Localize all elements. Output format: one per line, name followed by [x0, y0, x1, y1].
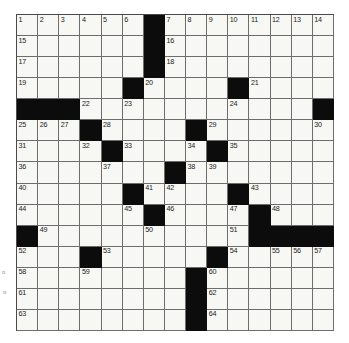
grid-letter-cell[interactable] — [292, 268, 313, 289]
grid-letter-cell[interactable] — [59, 78, 80, 99]
grid-letter-cell[interactable] — [38, 57, 59, 78]
grid-letter-cell[interactable] — [228, 310, 249, 331]
grid-letter-cell[interactable] — [165, 289, 186, 310]
grid-letter-cell[interactable] — [228, 36, 249, 57]
grid-letter-cell[interactable]: 11 — [249, 15, 270, 36]
grid-letter-cell[interactable] — [292, 289, 313, 310]
grid-letter-cell[interactable]: 23 — [123, 99, 144, 120]
grid-letter-cell[interactable]: 41 — [144, 184, 165, 205]
grid-letter-cell[interactable] — [292, 141, 313, 162]
grid-letter-cell[interactable]: 54 — [228, 247, 249, 268]
grid-letter-cell[interactable] — [249, 141, 270, 162]
grid-letter-cell[interactable]: 28 — [102, 120, 123, 141]
grid-letter-cell[interactable] — [59, 226, 80, 247]
grid-letter-cell[interactable] — [102, 310, 123, 331]
grid-letter-cell[interactable]: 52 — [17, 247, 38, 268]
grid-letter-cell[interactable] — [249, 247, 270, 268]
grid-letter-cell[interactable]: 21 — [249, 78, 270, 99]
grid-letter-cell[interactable] — [249, 268, 270, 289]
grid-letter-cell[interactable] — [123, 226, 144, 247]
grid-letter-cell[interactable] — [38, 268, 59, 289]
grid-letter-cell[interactable] — [59, 310, 80, 331]
grid-letter-cell[interactable] — [144, 120, 165, 141]
grid-letter-cell[interactable] — [102, 268, 123, 289]
grid-letter-cell[interactable]: 37 — [102, 162, 123, 183]
grid-letter-cell[interactable]: 49 — [38, 226, 59, 247]
grid-letter-cell[interactable]: 27 — [59, 120, 80, 141]
grid-letter-cell[interactable] — [292, 310, 313, 331]
grid-letter-cell[interactable]: 18 — [165, 57, 186, 78]
grid-letter-cell[interactable] — [186, 184, 207, 205]
grid-letter-cell[interactable] — [313, 78, 334, 99]
grid-letter-cell[interactable] — [80, 78, 101, 99]
grid-letter-cell[interactable]: 9 — [207, 15, 228, 36]
grid-letter-cell[interactable] — [165, 99, 186, 120]
grid-letter-cell[interactable]: 39 — [207, 162, 228, 183]
grid-letter-cell[interactable]: 22 — [80, 99, 101, 120]
grid-letter-cell[interactable] — [292, 36, 313, 57]
grid-letter-cell[interactable] — [271, 36, 292, 57]
grid-letter-cell[interactable]: 63 — [17, 310, 38, 331]
grid-letter-cell[interactable]: 53 — [102, 247, 123, 268]
grid-letter-cell[interactable] — [80, 310, 101, 331]
grid-letter-cell[interactable]: 24 — [228, 99, 249, 120]
grid-letter-cell[interactable] — [38, 162, 59, 183]
grid-letter-cell[interactable] — [144, 310, 165, 331]
grid-letter-cell[interactable]: 16 — [165, 36, 186, 57]
grid-letter-cell[interactable]: 13 — [292, 15, 313, 36]
grid-letter-cell[interactable] — [249, 289, 270, 310]
grid-letter-cell[interactable] — [292, 162, 313, 183]
grid-letter-cell[interactable] — [207, 226, 228, 247]
grid-letter-cell[interactable] — [123, 310, 144, 331]
grid-letter-cell[interactable] — [102, 184, 123, 205]
grid-letter-cell[interactable] — [144, 289, 165, 310]
grid-letter-cell[interactable] — [292, 78, 313, 99]
grid-letter-cell[interactable] — [271, 184, 292, 205]
grid-letter-cell[interactable] — [249, 120, 270, 141]
grid-letter-cell[interactable]: 31 — [17, 141, 38, 162]
grid-letter-cell[interactable] — [38, 184, 59, 205]
grid-letter-cell[interactable] — [123, 36, 144, 57]
grid-letter-cell[interactable]: 32 — [80, 141, 101, 162]
grid-letter-cell[interactable] — [38, 36, 59, 57]
grid-letter-cell[interactable]: 17 — [17, 57, 38, 78]
grid-letter-cell[interactable] — [165, 226, 186, 247]
grid-letter-cell[interactable]: 8 — [186, 15, 207, 36]
grid-letter-cell[interactable] — [59, 36, 80, 57]
grid-letter-cell[interactable] — [313, 162, 334, 183]
grid-letter-cell[interactable] — [102, 78, 123, 99]
grid-letter-cell[interactable] — [271, 310, 292, 331]
grid-letter-cell[interactable] — [80, 289, 101, 310]
grid-letter-cell[interactable] — [207, 78, 228, 99]
grid-letter-cell[interactable] — [123, 57, 144, 78]
grid-letter-cell[interactable] — [144, 268, 165, 289]
grid-letter-cell[interactable] — [249, 162, 270, 183]
grid-letter-cell[interactable] — [313, 268, 334, 289]
grid-letter-cell[interactable] — [313, 141, 334, 162]
grid-letter-cell[interactable]: 35 — [228, 141, 249, 162]
grid-letter-cell[interactable] — [165, 78, 186, 99]
grid-letter-cell[interactable] — [59, 205, 80, 226]
grid-letter-cell[interactable] — [80, 184, 101, 205]
grid-letter-cell[interactable] — [165, 310, 186, 331]
grid-letter-cell[interactable] — [249, 310, 270, 331]
grid-letter-cell[interactable] — [249, 36, 270, 57]
grid-letter-cell[interactable]: 61 — [17, 289, 38, 310]
grid-letter-cell[interactable] — [38, 289, 59, 310]
grid-letter-cell[interactable]: 7 — [165, 15, 186, 36]
grid-letter-cell[interactable] — [123, 162, 144, 183]
grid-letter-cell[interactable] — [207, 36, 228, 57]
grid-letter-cell[interactable]: 30 — [313, 120, 334, 141]
grid-letter-cell[interactable] — [165, 247, 186, 268]
grid-letter-cell[interactable] — [102, 36, 123, 57]
grid-letter-cell[interactable] — [80, 162, 101, 183]
grid-letter-cell[interactable] — [292, 120, 313, 141]
grid-letter-cell[interactable]: 59 — [80, 268, 101, 289]
grid-letter-cell[interactable] — [249, 57, 270, 78]
grid-letter-cell[interactable] — [59, 57, 80, 78]
grid-letter-cell[interactable]: 26 — [38, 120, 59, 141]
crossword-grid[interactable]: 1234567891011121314151617181920212223242… — [16, 14, 334, 331]
grid-letter-cell[interactable] — [292, 184, 313, 205]
grid-letter-cell[interactable]: 5 — [102, 15, 123, 36]
grid-letter-cell[interactable]: 48 — [271, 205, 292, 226]
